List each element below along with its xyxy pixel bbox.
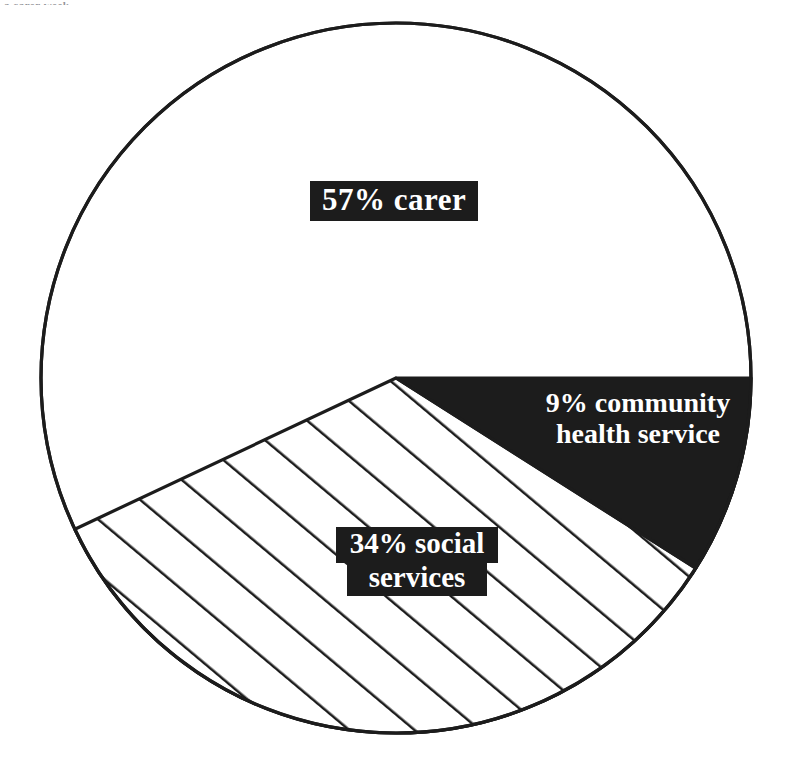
slice-label-community-health-line-2: health service bbox=[512, 418, 764, 449]
pie-chart-svg bbox=[0, 0, 791, 758]
slice-label-carer-line-1: 57% carer bbox=[310, 181, 478, 221]
pie-chart-figure: a carer week 57% carer bbox=[0, 0, 791, 758]
slice-label-carer: 57% carer bbox=[310, 181, 478, 221]
slice-label-social-services-line-1: 34% social bbox=[336, 527, 499, 563]
slice-label-community-health: 9% community health service bbox=[512, 387, 764, 450]
slice-label-social-services: 34% social services bbox=[291, 527, 543, 596]
slice-label-social-services-line-2: services bbox=[347, 561, 488, 597]
slice-label-community-health-line-1: 9% community bbox=[512, 387, 764, 418]
